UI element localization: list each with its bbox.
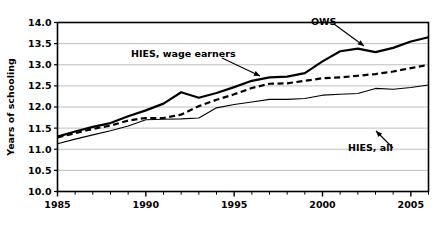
y-tick-label: 13.5	[28, 38, 51, 49]
y-tick-label: 11.0	[28, 144, 52, 155]
y-tick-label: 10.0	[28, 186, 52, 197]
y-tick-label: 13.0	[28, 59, 52, 70]
annotation-label: OWS	[311, 16, 337, 27]
annotation-label: HIES, all	[348, 142, 393, 153]
y-axis-tick-labels: 10.010.511.011.512.012.513.013.514.0	[28, 17, 52, 197]
annotation-label: HIES, wage earners	[131, 48, 236, 59]
line-chart: 10.010.511.011.512.012.513.013.514.0 198…	[0, 0, 440, 234]
y-tick-label: 14.0	[28, 17, 52, 28]
x-tick-label: 1990	[133, 199, 160, 210]
x-tick-label: 2000	[309, 199, 336, 210]
y-tick-label: 12.0	[28, 101, 52, 112]
y-tick-label: 11.5	[28, 123, 51, 134]
y-tick-label: 12.5	[28, 80, 51, 91]
y-axis-title: Years of schooling	[5, 58, 16, 157]
x-tick-label: 1985	[44, 199, 70, 210]
x-tick-label: 2005	[398, 199, 424, 210]
chart-container: 10.010.511.011.512.012.513.013.514.0 198…	[0, 0, 440, 234]
x-tick-label: 1995	[221, 199, 247, 210]
y-tick-label: 10.5	[28, 165, 51, 176]
